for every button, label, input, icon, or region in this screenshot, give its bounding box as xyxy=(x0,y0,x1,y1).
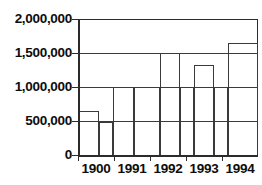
gridline xyxy=(78,53,258,54)
gridline xyxy=(78,121,258,122)
y-axis-tick xyxy=(72,53,79,54)
y-axis-tick xyxy=(72,19,79,20)
bar-chart: 0500,0001,000,0001,500,0002,000,000 1900… xyxy=(0,0,262,185)
bar xyxy=(78,111,99,155)
y-axis-tick xyxy=(72,121,79,122)
bar xyxy=(99,122,113,155)
bar xyxy=(194,65,214,155)
plot-area xyxy=(78,19,258,155)
x-axis-tick-label: 1991 xyxy=(112,161,152,176)
x-axis xyxy=(78,155,258,157)
x-axis-tick-label: 1900 xyxy=(76,161,116,176)
gridline xyxy=(78,87,258,88)
y-axis-tick-label: 2,000,000 xyxy=(0,11,72,26)
y-axis-tick-label: 500,000 xyxy=(0,113,72,128)
bar xyxy=(228,43,258,155)
y-axis-tick-label: 1,000,000 xyxy=(0,79,72,94)
y-axis-tick-label: 0 xyxy=(0,147,72,162)
y-axis-tick-label: 1,500,000 xyxy=(0,45,72,60)
x-axis-tick-label: 1992 xyxy=(148,161,188,176)
y-axis-tick xyxy=(72,87,79,88)
bar xyxy=(160,53,180,155)
x-axis-tick-label: 1993 xyxy=(184,161,224,176)
x-axis-tick-label: 1994 xyxy=(220,161,260,176)
